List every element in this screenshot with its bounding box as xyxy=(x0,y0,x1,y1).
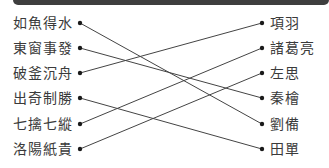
right-dot-icon[interactable] xyxy=(260,21,264,25)
connection-line xyxy=(80,48,262,98)
right-dot-icon[interactable] xyxy=(260,96,264,100)
left-dot-icon[interactable] xyxy=(78,71,82,75)
left-dots xyxy=(78,21,82,151)
right-dot-icon[interactable] xyxy=(260,147,264,151)
right-dot-icon[interactable] xyxy=(260,122,264,126)
right-dot-icon[interactable] xyxy=(260,71,264,75)
left-dot-icon[interactable] xyxy=(78,46,82,50)
connection-line xyxy=(80,98,262,149)
left-dot-icon[interactable] xyxy=(78,122,82,126)
connection-line xyxy=(80,48,262,124)
left-dot-icon[interactable] xyxy=(78,96,82,100)
left-dot-icon[interactable] xyxy=(78,21,82,25)
connection-line xyxy=(80,73,262,149)
left-dot-icon[interactable] xyxy=(78,147,82,151)
connection-line xyxy=(80,23,262,73)
right-dot-icon[interactable] xyxy=(260,46,264,50)
right-dots xyxy=(260,21,264,151)
connection-lines xyxy=(80,23,262,149)
